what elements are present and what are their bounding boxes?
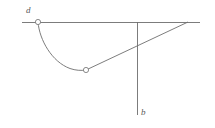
point-marker-d: [35, 19, 40, 24]
figure-canvas: d b: [0, 0, 215, 128]
label-point-d: d: [26, 6, 31, 15]
label-point-b: b: [141, 108, 146, 117]
descending-curve: [38, 22, 86, 70]
geometry-diagram: [0, 0, 215, 128]
point-marker-c: [83, 67, 88, 72]
